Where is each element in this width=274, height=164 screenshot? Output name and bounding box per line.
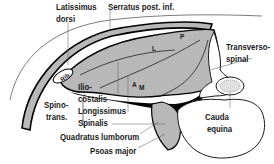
- marker-l: L: [152, 44, 156, 54]
- cauda-label-2: equina: [207, 124, 232, 134]
- marker-a: A: [132, 80, 137, 90]
- spinotrans-label-2: trans.: [46, 112, 67, 122]
- cauda-equina-shape: [220, 80, 240, 92]
- marker-p: P: [180, 32, 184, 42]
- iliocostalis-label-1: Ilio-: [78, 82, 92, 92]
- transversospinal-label-1: Transverso-: [226, 42, 270, 52]
- serratus-label: Serratus post. inf.: [108, 2, 174, 12]
- latissimus-label-2: dorsi: [56, 14, 75, 24]
- spinalis-label: Spinalis: [78, 118, 108, 128]
- psoas-label: Psoas major: [90, 146, 136, 156]
- cauda-label-1: Cauda: [205, 112, 229, 122]
- iliocostalis-label-2: costalis: [78, 94, 107, 104]
- longissimus-label: Longissimus: [78, 106, 126, 116]
- latissimus-label-1: Latissimus: [56, 2, 97, 12]
- quadratus-label: Quadratus lumborum: [60, 132, 139, 142]
- anatomy-diagram: Latissimus dorsi Serratus post. inf. Tra…: [0, 0, 274, 164]
- marker-m: M: [139, 83, 144, 93]
- spinotrans-label-1: Spino-: [44, 100, 68, 110]
- transversospinal-label-2: spinal: [226, 54, 249, 64]
